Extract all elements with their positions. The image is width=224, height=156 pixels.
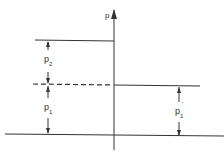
axis-arrow-icon [111, 9, 117, 19]
pressure-diagram: p p 2 p 1 p 1 ' [0, 0, 224, 156]
level-top [35, 40, 114, 41]
level-middle-solid [114, 85, 200, 86]
level-middle-dashed [33, 84, 112, 85]
axis-label: p [105, 11, 110, 20]
p1-prime-mark: ' [182, 101, 183, 107]
p2-subscript: 2 [49, 61, 53, 67]
p1-prime-subscript: 1 [180, 113, 184, 119]
p1-subscript: 1 [49, 109, 53, 115]
